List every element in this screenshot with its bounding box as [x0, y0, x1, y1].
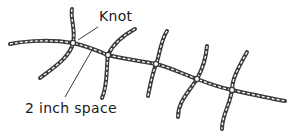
branch-strand-2: [102, 29, 135, 98]
knot-3: [153, 61, 158, 66]
space-label: 2 inch space: [25, 100, 117, 116]
knot-1: [70, 40, 75, 45]
leader-lines: [65, 27, 98, 97]
knot-2: [105, 52, 110, 57]
space-leader: [65, 50, 92, 97]
knot-leader: [78, 27, 98, 40]
knot-4: [194, 76, 199, 81]
knotted-cord-diagram: [0, 0, 293, 137]
knot-5: [229, 87, 234, 92]
knot-label: Knot: [99, 8, 132, 24]
